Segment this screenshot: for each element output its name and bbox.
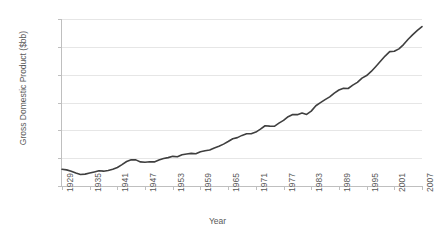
- y-tick-mark: [58, 19, 62, 20]
- x-tick-label: 2007: [426, 173, 435, 192]
- gdp-line-path: [62, 27, 422, 175]
- x-axis-line: [61, 186, 423, 187]
- x-tick-mark: [145, 186, 146, 190]
- x-tick-mark: [256, 186, 257, 190]
- x-tick-label: 1959: [204, 173, 213, 192]
- x-tick-label: 1977: [288, 173, 297, 192]
- y-axis-title: Gross Domestic Product ($bb): [18, 3, 28, 173]
- y-tick-mark: [58, 103, 62, 104]
- x-tick-mark: [422, 186, 423, 190]
- x-tick-mark: [173, 186, 174, 190]
- x-tick-mark: [339, 186, 340, 190]
- y-tick-mark: [58, 47, 62, 48]
- y-tick-mark: [58, 130, 62, 131]
- x-tick-label: 2001: [398, 173, 407, 192]
- x-axis-title: Year: [0, 216, 435, 226]
- x-tick-mark: [117, 186, 118, 190]
- gdp-series-line: [62, 19, 422, 186]
- x-tick-mark: [62, 186, 63, 190]
- x-tick-mark: [394, 186, 395, 190]
- x-tick-label: 1947: [149, 173, 158, 192]
- x-tick-label: 1935: [94, 173, 103, 192]
- x-tick-label: 1983: [315, 173, 324, 192]
- x-tick-label: 1995: [371, 173, 380, 192]
- y-tick-mark: [58, 75, 62, 76]
- gdp-line-chart: Gross Domestic Product ($bb) Year 02,000…: [0, 0, 435, 233]
- x-tick-mark: [228, 186, 229, 190]
- x-tick-mark: [90, 186, 91, 190]
- x-tick-label: 1989: [343, 173, 352, 192]
- x-tick-label: 1965: [232, 173, 241, 192]
- plot-area: [62, 19, 422, 186]
- x-tick-mark: [200, 186, 201, 190]
- x-tick-label: 1929: [66, 173, 75, 192]
- y-tick-mark: [58, 158, 62, 159]
- x-tick-mark: [311, 186, 312, 190]
- x-tick-mark: [284, 186, 285, 190]
- x-tick-label: 1941: [121, 173, 130, 192]
- x-tick-mark: [367, 186, 368, 190]
- x-tick-label: 1953: [177, 173, 186, 192]
- x-tick-label: 1971: [260, 173, 269, 192]
